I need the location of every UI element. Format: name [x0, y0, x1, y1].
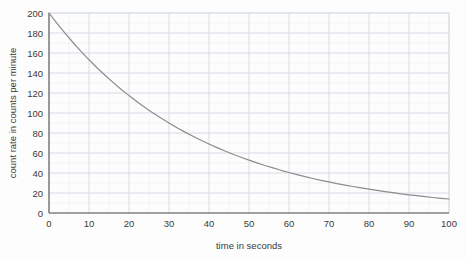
- y-tick-label: 20: [32, 188, 43, 199]
- y-tick-label: 160: [27, 48, 43, 59]
- x-tick-label: 30: [164, 218, 175, 229]
- y-tick-label: 60: [32, 148, 43, 159]
- y-tick-label: 180: [27, 28, 43, 39]
- x-tick-label: 70: [324, 218, 335, 229]
- y-tick-label: 120: [27, 88, 43, 99]
- x-tick-label: 0: [46, 218, 51, 229]
- x-axis-title: time in seconds: [216, 240, 282, 251]
- y-tick-label: 80: [32, 128, 43, 139]
- chart-page: 0102030405060708090100 20406080100120140…: [0, 0, 466, 262]
- x-tick-label: 90: [404, 218, 415, 229]
- y-tick-label-zero: 0: [38, 208, 43, 219]
- y-tick-label: 200: [27, 8, 43, 19]
- x-tick-label: 50: [244, 218, 255, 229]
- x-tick-label: 20: [124, 218, 135, 229]
- decay-curve-chart: 0102030405060708090100 20406080100120140…: [0, 0, 466, 262]
- x-tick-label: 10: [84, 218, 95, 229]
- x-tick-label: 80: [364, 218, 375, 229]
- y-tick-label: 40: [32, 168, 43, 179]
- y-tick-label: 100: [27, 108, 43, 119]
- y-tick-label: 140: [27, 68, 43, 79]
- y-axis-title: count rate in counts per minute: [7, 48, 18, 178]
- x-tick-label: 100: [441, 218, 457, 229]
- x-tick-label: 60: [284, 218, 295, 229]
- x-tick-label: 40: [204, 218, 215, 229]
